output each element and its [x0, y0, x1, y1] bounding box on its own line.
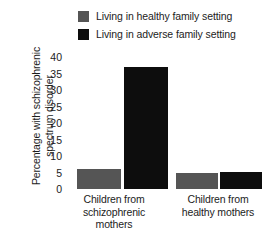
x-category-1-line-1: Children from	[60, 193, 168, 206]
y-axis-title: Percentage with schizophrenic spectrum d…	[0, 36, 34, 196]
x-category-1-line-2: schizophrenic	[60, 206, 168, 219]
y-tick-40: 40	[36, 52, 62, 63]
legend-swatch-adverse-icon	[78, 29, 89, 40]
x-category-schizophrenic-mothers: Children from schizophrenic mothers	[60, 193, 168, 231]
legend-swatch-healthy-icon	[78, 11, 89, 22]
y-tick-10: 10	[36, 151, 62, 162]
bar-group1-adverse-setting	[124, 67, 168, 189]
bars-container	[66, 57, 262, 189]
y-tick-25: 25	[36, 101, 62, 112]
y-tick-0: 0	[36, 184, 62, 195]
y-tick-20: 20	[36, 118, 62, 129]
x-category-healthy-mothers: Children from healthy mothers	[168, 193, 268, 218]
y-axis-ticks: 40 35 30 25 20 15 10 5 0	[36, 50, 62, 196]
chart-legend: Living in healthy family setting Living …	[78, 9, 264, 45]
legend-item-healthy-setting: Living in healthy family setting	[78, 9, 264, 24]
x-category-2-line-1: Children from	[168, 193, 268, 206]
bar-group2-healthy-setting	[176, 173, 218, 189]
x-axis-labels: Children from schizophrenic mothers Chil…	[60, 193, 268, 241]
legend-label-healthy-setting: Living in healthy family setting	[96, 11, 232, 22]
y-tick-5: 5	[36, 167, 62, 178]
bar-chart-figure: Living in healthy family setting Living …	[0, 0, 268, 246]
legend-label-adverse-setting: Living in adverse family setting	[96, 29, 236, 40]
bar-group1-healthy-setting	[77, 169, 121, 189]
y-tick-30: 30	[36, 85, 62, 96]
x-category-1-line-3: mothers	[60, 218, 168, 231]
plot-area	[66, 57, 262, 189]
x-category-2-line-2: healthy mothers	[168, 206, 268, 219]
y-tick-35: 35	[36, 68, 62, 79]
bar-group2-adverse-setting	[220, 172, 262, 189]
legend-item-adverse-setting: Living in adverse family setting	[78, 27, 264, 42]
y-tick-15: 15	[36, 134, 62, 145]
